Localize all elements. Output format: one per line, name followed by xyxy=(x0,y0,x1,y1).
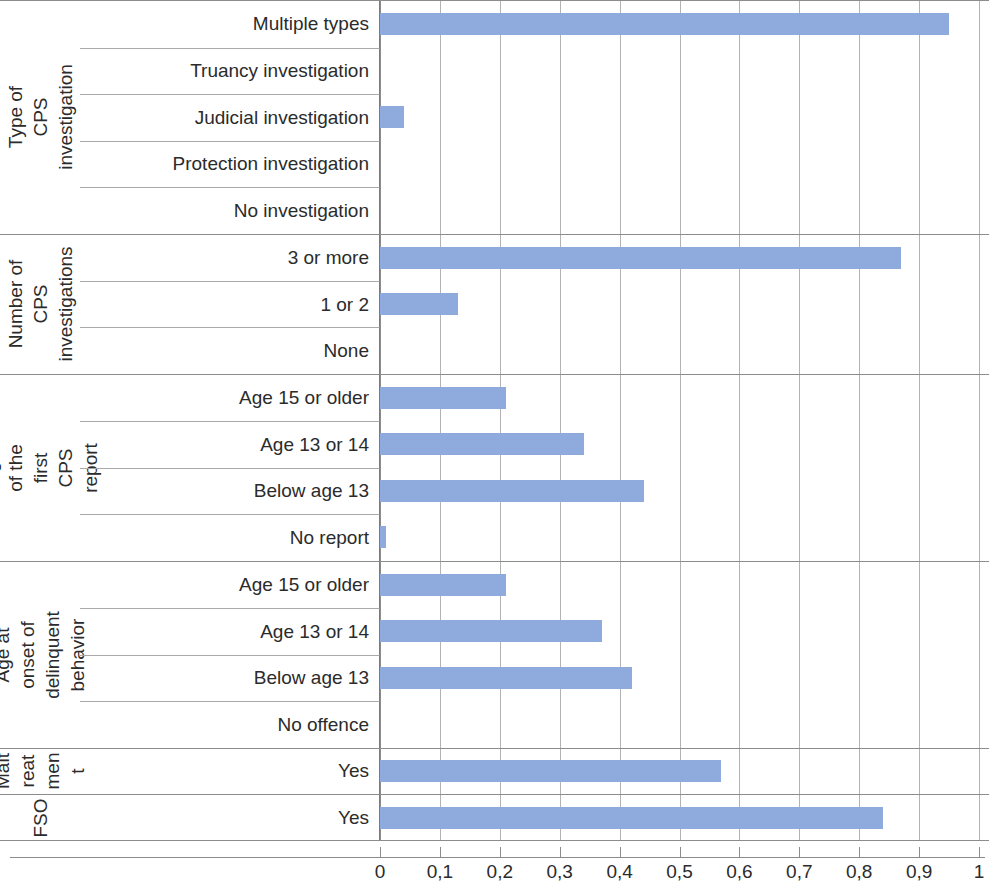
x-axis-tick xyxy=(440,847,441,858)
chart-row: Age 13 or 14 xyxy=(80,608,989,654)
x-axis-tick-label: 0,8 xyxy=(846,861,872,882)
bar-cell xyxy=(380,749,989,795)
chart-row: Age 15 or older xyxy=(80,375,989,421)
bar-cell xyxy=(380,562,989,608)
x-axis-tick xyxy=(500,847,501,858)
group-axis-label: Type of CPSinvestigation xyxy=(0,1,80,234)
category-label: Truancy investigation xyxy=(80,48,380,95)
chart-row: Age 13 or 14 xyxy=(80,421,989,467)
x-axis-tick xyxy=(620,847,621,858)
group-axis-label-line: investigations xyxy=(53,247,78,362)
bar-group: Age at onset ofdelinquentbehaviorAge 15 … xyxy=(0,561,989,748)
category-rows: Age 15 or olderAge 13 or 14Below age 13N… xyxy=(80,562,989,748)
bar xyxy=(380,526,386,548)
bar-cell xyxy=(380,187,989,234)
chart-row: Truancy investigation xyxy=(80,48,989,95)
bar-cell xyxy=(380,795,989,840)
group-axis-label-line: men xyxy=(40,753,65,790)
x-axis-tick xyxy=(919,847,920,858)
bar xyxy=(380,760,721,782)
bar-cell xyxy=(380,421,989,467)
x-axis-line xyxy=(10,857,985,858)
horizontal-bar-chart: Type of CPSinvestigationMultiple typesTr… xyxy=(0,0,989,882)
bar-cell xyxy=(380,514,989,560)
group-axis-label: Age at onset ofdelinquentbehavior xyxy=(0,562,80,748)
x-axis-tick-label: 0,2 xyxy=(487,861,513,882)
chart-row: 1 or 2 xyxy=(80,281,989,327)
x-axis-tick-label: 0,4 xyxy=(606,861,632,882)
chart-row: Age 15 or older xyxy=(80,562,989,608)
chart-row: Below age 13 xyxy=(80,655,989,701)
category-label: Judicial investigation xyxy=(80,94,380,141)
chart-row: No report xyxy=(80,514,989,560)
category-rows: Multiple typesTruancy investigationJudic… xyxy=(80,1,989,234)
bar-group: Number ofCPSinvestigations3 or more1 or … xyxy=(0,234,989,374)
category-label: Age 13 or 14 xyxy=(80,608,380,654)
chart-row: Judicial investigation xyxy=(80,94,989,141)
x-axis-tick xyxy=(859,847,860,858)
x-axis: 00,10,20,30,40,50,60,70,80,91 xyxy=(0,841,989,882)
bar-cell xyxy=(380,701,989,747)
chart-row: No offence xyxy=(80,701,989,747)
bar-group: Type of CPSinvestigationMultiple typesTr… xyxy=(0,0,989,234)
bar-group: Age of the first CPSreportAge 15 or olde… xyxy=(0,374,989,561)
category-label: Age 15 or older xyxy=(80,562,380,608)
category-label: Protection investigation xyxy=(80,141,380,188)
category-label: No offence xyxy=(80,701,380,747)
x-axis-tick xyxy=(560,847,561,858)
group-axis-label-line: Malt xyxy=(0,753,15,790)
category-label: None xyxy=(80,327,380,373)
group-axis-label-line: Age at onset of xyxy=(0,611,40,699)
bar-cell xyxy=(380,235,989,281)
category-label: Age 13 or 14 xyxy=(80,421,380,467)
x-axis-tick-label: 0,5 xyxy=(666,861,692,882)
bar-group: FSOYes xyxy=(0,794,989,841)
category-rows: Age 15 or olderAge 13 or 14Below age 13N… xyxy=(80,375,989,561)
bar-group: MaltreatmentYes xyxy=(0,748,989,795)
x-axis-tick xyxy=(380,847,381,858)
category-label: No report xyxy=(80,514,380,560)
chart-row: 3 or more xyxy=(80,235,989,281)
category-label: Yes xyxy=(80,749,380,795)
bar-cell xyxy=(380,327,989,373)
chart-row: No investigation xyxy=(80,187,989,234)
x-axis-tick xyxy=(979,847,980,858)
bar xyxy=(380,480,644,502)
category-label: Below age 13 xyxy=(80,655,380,701)
bar xyxy=(380,620,602,642)
category-label: Age 15 or older xyxy=(80,375,380,421)
x-axis-tick-label: 0,6 xyxy=(726,861,752,882)
chart-row: Yes xyxy=(80,795,989,840)
bar-cell xyxy=(380,281,989,327)
bar xyxy=(380,433,584,455)
bar-cell xyxy=(380,94,989,141)
group-axis-label-line: Number of xyxy=(3,247,28,362)
category-label: 3 or more xyxy=(80,235,380,281)
x-axis-tick-label: 0,9 xyxy=(906,861,932,882)
chart-plot-body: Type of CPSinvestigationMultiple typesTr… xyxy=(0,0,989,841)
bar-cell xyxy=(380,1,989,48)
x-axis-tick-label: 0,1 xyxy=(427,861,453,882)
x-axis-tick-label: 0,7 xyxy=(786,861,812,882)
bar-cell xyxy=(380,655,989,701)
category-rows: 3 or more1 or 2None xyxy=(80,235,989,374)
x-axis-tick xyxy=(680,847,681,858)
group-axis-label-line: reat xyxy=(15,753,40,790)
category-rows: Yes xyxy=(80,795,989,840)
x-axis-tick xyxy=(739,847,740,858)
group-axis-label-line: FSO xyxy=(28,798,53,837)
bar xyxy=(380,807,883,829)
bar-cell xyxy=(380,468,989,514)
bar xyxy=(380,387,506,409)
group-axis-label-line: investigation xyxy=(53,64,78,170)
bar xyxy=(380,13,949,35)
chart-row: Protection investigation xyxy=(80,141,989,188)
group-axis-label: Maltreatment xyxy=(0,749,80,795)
bar xyxy=(380,247,901,269)
group-axis-label-line: CPS xyxy=(28,247,53,362)
x-axis-tick-label: 0,3 xyxy=(546,861,572,882)
category-label: Below age 13 xyxy=(80,468,380,514)
bar xyxy=(380,293,458,315)
group-axis-label-line: delinquent xyxy=(40,611,65,699)
chart-row: None xyxy=(80,327,989,373)
